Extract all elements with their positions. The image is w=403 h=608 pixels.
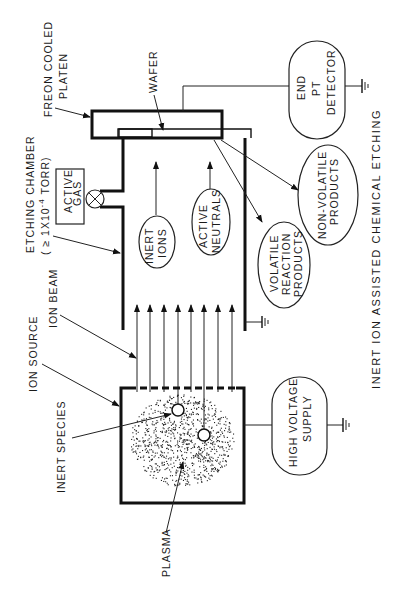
- plasma-dot: [187, 467, 188, 468]
- wafer: [118, 129, 152, 137]
- plasma-dot: [134, 440, 135, 441]
- plasma-dot: [145, 432, 146, 433]
- ion-source-leader: [42, 364, 119, 406]
- plasma-dot: [215, 468, 216, 469]
- plasma-dot: [156, 478, 157, 479]
- plasma-dot: [207, 480, 208, 481]
- plasma-dot: [175, 427, 176, 428]
- volatile-label-3: PRODUCTS: [292, 230, 304, 297]
- plasma-dot: [151, 449, 152, 450]
- plasma-dot: [212, 416, 213, 417]
- plasma-dot: [151, 436, 152, 437]
- plasma-dot: [218, 445, 219, 446]
- plasma-dot: [162, 463, 163, 464]
- plasma-dot: [188, 444, 189, 445]
- plasma-dot: [163, 456, 164, 457]
- plasma-dot: [147, 429, 148, 430]
- plasma-dot: [177, 444, 178, 445]
- plasma-dot: [211, 428, 212, 429]
- plasma-dot: [218, 440, 219, 441]
- plasma-dot: [163, 427, 164, 428]
- plasma-dot: [191, 422, 192, 423]
- plasma-dot: [180, 434, 181, 435]
- wafer-label: WAFER: [147, 50, 159, 93]
- plasma-dot: [154, 445, 155, 446]
- plasma-dot: [188, 424, 189, 425]
- plasma-dot: [205, 460, 206, 461]
- plasma-dot: [153, 477, 154, 478]
- plasma-dot: [135, 425, 136, 426]
- plasma-dot: [198, 414, 199, 415]
- plasma-dot: [193, 405, 194, 406]
- plasma-dot: [149, 461, 150, 462]
- plasma-dot: [183, 440, 184, 441]
- plasma-dot: [166, 468, 167, 469]
- plasma-dot: [177, 432, 178, 433]
- plasma-dot: [145, 422, 146, 423]
- plasma-dot: [179, 446, 180, 447]
- plasma-dot: [197, 457, 198, 458]
- plasma-dot: [144, 460, 145, 461]
- plasma-dot: [189, 435, 190, 436]
- plasma-dot: [144, 419, 145, 420]
- plasma-dot: [208, 478, 209, 479]
- plasma-dot: [194, 435, 195, 436]
- plasma-dot: [179, 427, 180, 428]
- plasma-dot: [147, 425, 148, 426]
- plasma-dot: [194, 472, 195, 473]
- plasma-dot: [135, 452, 136, 453]
- plasma-dot: [212, 461, 213, 462]
- plasma-dot: [227, 451, 228, 452]
- plasma-dot: [177, 467, 178, 468]
- plasma-dot: [151, 445, 152, 446]
- plasma-dot: [232, 438, 233, 439]
- plasma-dot: [177, 470, 178, 471]
- plasma-dot: [225, 417, 226, 418]
- plasma-dot: [216, 441, 217, 442]
- plasma-dot: [221, 455, 222, 456]
- plasma-dot: [214, 415, 215, 416]
- plasma-dot: [220, 462, 221, 463]
- plasma-dot: [171, 431, 172, 432]
- plasma-dot: [178, 445, 179, 446]
- plasma-dot: [181, 472, 182, 473]
- plasma-dot: [199, 449, 200, 450]
- chamber-wall-left-lower: [100, 207, 123, 330]
- plasma-dot: [186, 443, 187, 444]
- plasma-dot: [143, 456, 144, 457]
- plasma-dot: [191, 472, 192, 473]
- plasma-dot: [214, 422, 215, 423]
- plasma-dot: [185, 466, 186, 467]
- plasma-dot: [194, 447, 195, 448]
- plasma-dot: [168, 428, 169, 429]
- plasma-dot: [149, 449, 150, 450]
- plasma-dot: [164, 406, 165, 407]
- plasma-dot: [175, 475, 176, 476]
- plasma-dot: [164, 462, 165, 463]
- plasma-dot: [170, 475, 171, 476]
- plasma-dot: [209, 479, 210, 480]
- plasma-dot: [170, 464, 171, 465]
- plasma-dot: [155, 441, 156, 442]
- plasma-dot: [145, 445, 146, 446]
- plasma-dot: [168, 422, 169, 423]
- plasma-dot: [162, 441, 163, 442]
- plasma-dot: [173, 397, 174, 398]
- plasma-dot: [230, 431, 231, 432]
- plasma-dot: [158, 446, 159, 447]
- plasma-dot: [183, 442, 184, 443]
- plasma-dot: [143, 412, 144, 413]
- plasma-dot: [204, 449, 205, 450]
- plasma-dot: [227, 437, 228, 438]
- plasma-dot: [215, 410, 216, 411]
- plasma-dot: [195, 443, 196, 444]
- plasma-dot: [154, 430, 155, 431]
- plasma-dot: [201, 481, 202, 482]
- plasma-dot: [203, 465, 204, 466]
- plasma-dot: [185, 479, 186, 480]
- plasma-dot: [187, 481, 188, 482]
- high-voltage-supply: [272, 377, 327, 475]
- plasma-dot: [131, 439, 132, 440]
- hv-label-1: HIGH VOLTAGE: [287, 378, 299, 467]
- plasma-dot: [167, 463, 168, 464]
